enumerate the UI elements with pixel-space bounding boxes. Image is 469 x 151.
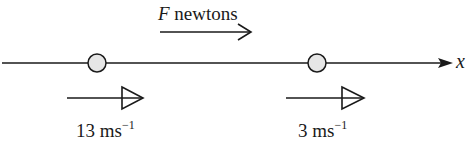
velocity-2-value: 3 — [298, 120, 308, 141]
velocity-1-value: 13 — [76, 120, 95, 141]
velocity-1-unit: ms — [95, 120, 122, 141]
particle-1 — [88, 54, 106, 72]
force-arrow-icon — [160, 24, 251, 40]
velocity-arrow-2-icon — [286, 87, 364, 109]
x-axis — [2, 58, 453, 68]
force-symbol: F — [158, 3, 170, 24]
velocity-arrow-1-icon — [67, 87, 143, 109]
force-label: F newtons — [158, 4, 238, 23]
force-unit: newtons — [170, 3, 238, 24]
velocity-label-2: 3 ms−1 — [298, 121, 347, 140]
axis-label: x — [456, 51, 465, 71]
mechanics-diagram: F newtons x 13 ms−1 3 ms−1 — [0, 0, 469, 151]
velocity-2-unit: ms — [308, 120, 335, 141]
particle-2 — [308, 54, 326, 72]
velocity-label-1: 13 ms−1 — [76, 121, 135, 140]
velocity-1-exponent: −1 — [122, 118, 135, 132]
velocity-2-exponent: −1 — [334, 118, 347, 132]
